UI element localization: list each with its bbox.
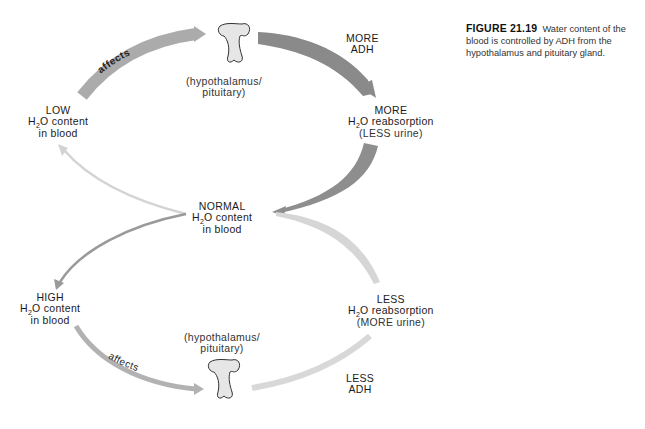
normal-to-high-arrow bbox=[60, 214, 186, 282]
feedback-loop-diagram: affects affects bbox=[0, 0, 645, 429]
gland-label-bottom: (hypothalamus/ pituitary) bbox=[184, 332, 260, 354]
high-h2o-label: HIGH H2O content in blood bbox=[20, 292, 80, 326]
low-h2o-label: LOW H2O content in blood bbox=[28, 105, 88, 139]
less-reabsorption-label: LESS H2O reabsorption (MORE urine) bbox=[348, 294, 434, 328]
gland-icon-top bbox=[218, 24, 249, 63]
more-adh-label: MORE ADH bbox=[346, 33, 379, 55]
reabsorption-to-normal-arrow-low bbox=[276, 212, 380, 284]
reabsorption-to-normal-arrow bbox=[278, 143, 378, 213]
figure-number: FIGURE 21.19 bbox=[466, 22, 537, 34]
less-adh-label: LESS ADH bbox=[346, 373, 374, 395]
gland-label-top: (hypothalamus/ pituitary) bbox=[186, 76, 262, 98]
more-reabsorption-label: MORE H2O reabsorption (LESS urine) bbox=[348, 105, 434, 139]
gland-icon-bottom bbox=[208, 360, 239, 399]
normal-to-low-arrow bbox=[64, 150, 186, 214]
figure-caption: FIGURE 21.19 Water content of the blood … bbox=[466, 22, 645, 59]
normal-h2o-label: NORMAL H2O content in blood bbox=[192, 201, 252, 235]
